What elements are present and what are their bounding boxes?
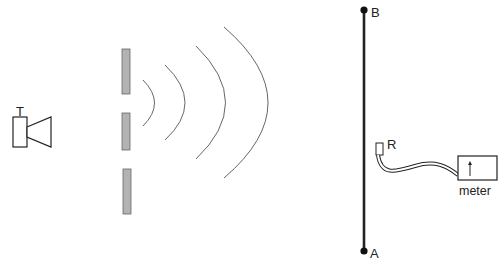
receiver-probe-icon (376, 143, 383, 155)
meter: meter (458, 156, 497, 198)
wavefront-1 (143, 80, 155, 126)
point-a-label: A (370, 246, 379, 261)
wavefront-4 (224, 27, 268, 178)
wavefront-3 (196, 46, 226, 159)
receiver-label: R (387, 137, 396, 152)
diffraction-diagram: T B A R meter (0, 0, 504, 262)
line-ab: B A (360, 5, 379, 261)
point-a-dot (360, 247, 367, 254)
wavefronts (143, 27, 268, 178)
barrier (122, 49, 131, 214)
point-b-dot (360, 6, 367, 13)
barrier-bottom (123, 169, 131, 214)
wavefront-2 (165, 65, 185, 140)
meter-label: meter (459, 184, 491, 198)
receiver: R (376, 137, 458, 175)
transmitter-body-icon (13, 117, 27, 147)
barrier-middle (122, 113, 130, 150)
point-b-label: B (371, 5, 380, 20)
meter-box (458, 156, 497, 180)
barrier-top (122, 49, 130, 94)
transmitter: T (13, 104, 51, 147)
transmitter-horn-icon (27, 117, 51, 147)
